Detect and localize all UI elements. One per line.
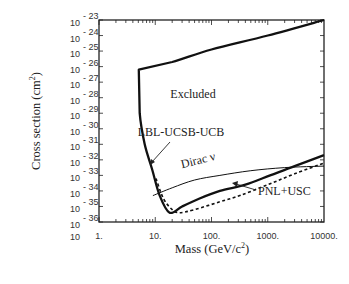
x-tick-labels: 1.10.100.1000.10000. [95,231,338,241]
y-tick-exponent: - 31 [83,135,99,145]
y-tick-label: 10 [70,158,80,168]
y-tick-exponent: - 30 [83,120,99,130]
y-tick-exponent: - 36 [83,213,99,223]
y-tick-label: 10 [70,34,80,44]
y-tick-exponent: - 27 [83,73,99,83]
y-tick-exponent: - 25 [83,42,99,52]
y-tick-label: 10 [70,96,80,106]
lbl-arrow [152,142,170,162]
y-tick-label: 10 [70,111,80,121]
y-tick-label: 10 [70,232,80,242]
y-tick-exponent: - 34 [83,182,99,192]
x-tick-label: 100. [203,231,221,241]
y-tick-label: 10 [70,127,80,137]
y-tick-label: 10 [70,80,80,90]
y-tick-label: 10 [70,142,80,152]
y-tick-exponent: - 32 [83,151,99,161]
y-tick-label: 10 [70,204,80,214]
x-axis-title: Mass (GeV/c2) [175,241,249,256]
pnl-arrowhead-icon [232,181,238,187]
pnl-usc-label: PNL+USC [258,184,311,198]
y-tick-exponent: - 26 [83,58,99,68]
excluded-label: Excluded [170,87,215,101]
x-tick-label: 10. [149,231,162,241]
y-tick-exponent: - 29 [83,104,99,114]
y-tick-labels: 10- 2310- 2410- 2510- 2610- 2710- 2810- … [70,11,99,242]
y-tick-label: 10 [70,189,80,199]
y-tick-exponent: - 24 [83,27,99,37]
x-tick-label: 1000. [256,231,279,241]
lbl-ucsb-ucb-label: LBL-UCSB-UCB [138,125,225,139]
x-tick-label: 10000. [310,231,338,241]
y-tick-exponent: - 28 [83,89,99,99]
exclusion-plot: 10- 2310- 2410- 2510- 2610- 2710- 2810- … [0,0,349,284]
dirac-nu-label: Dirac ν [179,149,217,171]
y-tick-exponent: - 35 [83,197,99,207]
y-tick-label: 10 [70,220,80,230]
y-tick-exponent: - 23 [83,11,99,21]
y-axis-title: Cross section (cm2) [28,72,43,170]
y-tick-label: 10 [70,18,80,28]
y-tick-label: 10 [70,173,80,183]
y-tick-exponent: - 33 [83,166,99,176]
y-tick-label: 10 [70,65,80,75]
x-tick-label: 1. [95,231,103,241]
y-tick-label: 10 [70,49,80,59]
